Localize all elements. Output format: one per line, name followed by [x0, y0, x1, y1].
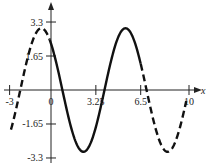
sinusoid-chart: x-303.256.5103.31.65-1.65-3.3 [0, 0, 209, 167]
y-tick-label: -1.65 [22, 118, 43, 129]
y-tick-label: 3.3 [31, 17, 44, 28]
curve-dashed-segment [11, 28, 50, 129]
x-axis-label: x [200, 85, 206, 96]
x-tick-label: 0 [49, 96, 54, 107]
y-tick-label: -3.3 [27, 152, 43, 163]
x-tick-label: 6.5 [134, 96, 147, 107]
x-tick-label: -3 [5, 96, 13, 107]
y-axis-arrow-icon [48, 2, 54, 10]
curve-dashed-segment [141, 64, 187, 152]
plot-area: x-303.256.5103.31.65-1.65-3.3 [0, 0, 209, 167]
